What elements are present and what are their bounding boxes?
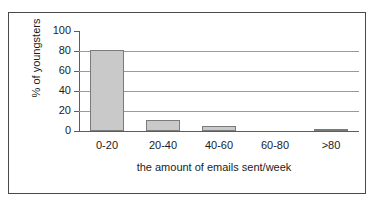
clipped-top-text: [0, 0, 378, 9]
figure-frame: % of youngsters 020406080100 0-2020-4040…: [8, 12, 366, 194]
y-tick-label: 20: [31, 105, 71, 116]
y-tick-label-slot: 0: [29, 125, 71, 136]
x-tick-label: 60-80: [245, 139, 305, 151]
bar-chart: % of youngsters 020406080100 0-2020-4040…: [9, 13, 365, 193]
y-tick-label: 60: [31, 65, 71, 76]
y-tick-label-slot: 40: [29, 85, 71, 96]
bar: [202, 126, 236, 131]
y-tick-label-slot: 20: [29, 105, 71, 116]
x-tick-label: 40-60: [189, 139, 249, 151]
y-tick-label-slot: 80: [29, 45, 71, 56]
y-tick-label: 100: [31, 25, 71, 36]
plot-area: [79, 31, 359, 131]
gridline: [79, 131, 359, 132]
x-tick-label: 0-20: [77, 139, 137, 151]
x-tick-label: 20-40: [133, 139, 193, 151]
y-tick-label: 80: [31, 45, 71, 56]
x-axis-title: the amount of emails sent/week: [69, 161, 359, 173]
bar: [90, 50, 124, 131]
y-tick-label-slot: 100: [29, 25, 71, 36]
bar: [146, 120, 180, 131]
x-tick-label: >80: [301, 139, 361, 151]
y-tick-label-slot: 60: [29, 65, 71, 76]
bar: [314, 129, 348, 131]
y-tick-label: 40: [31, 85, 71, 96]
y-tick-label: 0: [31, 125, 71, 136]
